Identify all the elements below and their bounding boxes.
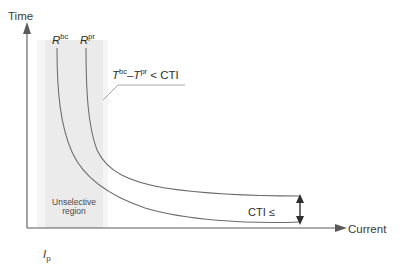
x-axis-arrowhead [335, 224, 347, 232]
annot-relation: < CTI [150, 69, 178, 81]
x-axis-label: Current [348, 223, 386, 236]
annotation-leader-line [103, 85, 185, 100]
y-axis-label: Time [8, 10, 33, 23]
cti-arrowhead-down [296, 216, 304, 225]
curve-label-rpr-sup: pr [88, 32, 95, 41]
x-tick-sub: p [46, 254, 50, 263]
annot-t1-base: T [112, 69, 119, 81]
cti-arrowhead-up [296, 194, 304, 203]
cti-inequality-annotation: Tbc–Tpr < CTI [112, 69, 179, 82]
figure-container: Time Current Rbc Rpr Tbc–Tpr < CTI Unsel… [0, 0, 400, 276]
curve-label-rbc-sup: bc [60, 32, 68, 41]
x-axis-tick-label-ip: Ip [43, 248, 51, 261]
curve-label-rpr: Rpr [80, 34, 95, 47]
curve-label-rbc: Rbc [52, 34, 68, 47]
y-axis-arrowhead [23, 22, 31, 34]
annot-t2-sup: pr [140, 67, 147, 76]
unselective-region-label: Unselective region [39, 198, 109, 217]
annot-t1-sup: bc [119, 67, 127, 76]
cti-margin-label: CTI ≤ [248, 206, 275, 218]
unselective-region-label-line2: region [39, 207, 109, 216]
